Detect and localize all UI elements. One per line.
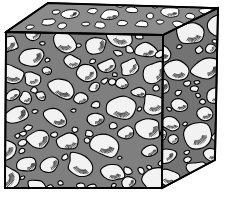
aggregate-hatch-mark	[225, 27, 227, 28]
aggregate-hatch-mark	[206, 116, 207, 118]
aggregate-hatch-mark	[40, 190, 42, 192]
aggregate-particle	[147, 165, 152, 169]
aggregate-hatch-mark	[45, 72, 46, 73]
aggregate-outline	[153, 85, 159, 91]
aggregate-particle	[184, 157, 192, 163]
aggregate-outline	[82, 22, 90, 26]
aggregate-outline	[183, 122, 188, 126]
aggregate-particle	[109, 123, 117, 129]
aggregate-hatch-mark	[49, 72, 51, 73]
aggregate-particle	[186, 162, 212, 179]
aggregate-particle	[147, 13, 154, 19]
aggregate-particle	[86, 38, 106, 55]
aggregate-outline	[177, 45, 182, 49]
aggregate-particle	[108, 79, 115, 85]
aggregate-outline	[186, 162, 212, 179]
aggregate-hatch-mark	[40, 97, 41, 98]
aggregate-outline	[212, 40, 217, 44]
aggregate-outline	[147, 13, 154, 19]
aggregate-hatch-mark	[222, 140, 224, 142]
aggregate-particle	[126, 7, 138, 13]
aggregate-outline	[58, 181, 63, 185]
aggregate-outline	[87, 8, 97, 13]
aggregate-hatch-mark	[217, 140, 218, 142]
aggregate-outline	[190, 86, 198, 92]
aggregate-particle	[39, 42, 45, 46]
aggregate-hatch-mark	[197, 174, 198, 176]
aggregate-outline	[199, 99, 205, 104]
aggregate-outline	[111, 183, 116, 187]
aggregate-particle	[190, 86, 198, 92]
aggregate-particle	[111, 183, 116, 187]
aggregate-particle	[199, 99, 205, 104]
aggregate-hatch-mark	[204, 172, 208, 173]
aggregate-hatch-mark	[201, 174, 203, 177]
aggregate-hatch-mark	[204, 173, 207, 175]
aggregate-outline	[86, 38, 106, 55]
aggregate-particle	[74, 93, 88, 104]
aggregate-outline	[196, 93, 201, 98]
aggregate-particle	[19, 148, 25, 153]
aggregate-particle	[85, 130, 93, 136]
aggregate-outline	[117, 20, 127, 26]
aggregate-outline	[118, 156, 122, 159]
aggregate-particle	[84, 138, 90, 143]
aggregate-hatch-mark	[169, 14, 170, 15]
aggregate-particle	[82, 22, 90, 26]
aggregate-outline	[184, 123, 212, 150]
aggregate-outline	[90, 59, 96, 64]
aggregate-particle	[194, 81, 200, 85]
aggregate-particle	[168, 135, 178, 144]
aggregate-hatch-mark	[221, 30, 222, 33]
aggregate-hatch-mark	[208, 73, 209, 76]
aggregate-outline	[85, 130, 93, 136]
aggregate-particle	[17, 157, 36, 171]
aggregate-particle	[71, 109, 76, 112]
aggregate-hatch-mark	[176, 74, 177, 77]
aggregate-outline	[184, 81, 191, 87]
aggregate-outline	[186, 13, 195, 19]
aggregate-particle	[42, 67, 51, 75]
aggregate-particle	[58, 181, 63, 185]
aggregate-outline	[39, 42, 45, 46]
aggregate-hatch-mark	[131, 181, 133, 182]
aggregate-hatch-mark	[222, 140, 224, 141]
aggregate-particle	[183, 122, 188, 126]
aggregate-hatch-mark	[209, 114, 212, 115]
aggregate-hatch-mark	[220, 141, 221, 143]
aggregate-particle	[197, 107, 213, 121]
aggregate-outline	[42, 19, 56, 25]
aggregate-outline	[20, 176, 25, 179]
aggregate-particle	[90, 59, 96, 64]
aggregate-outline	[84, 138, 90, 143]
aggregate-outline	[137, 107, 142, 111]
aggregate-outline	[147, 165, 152, 169]
aggregate-hatch-mark	[203, 173, 206, 175]
aggregate-particle	[72, 127, 78, 132]
aggregate-outline	[32, 110, 38, 114]
aggregate-outline	[95, 22, 106, 28]
aggregate-hatch-mark	[36, 190, 37, 192]
aggregate-hatch-mark	[219, 98, 221, 100]
aggregate-hatch-mark	[38, 190, 39, 192]
aggregate-particle	[76, 44, 81, 48]
aggregate-hatch-mark	[96, 88, 97, 89]
aggregate-particle	[45, 58, 50, 62]
figure-canvas	[0, 0, 227, 199]
aggregate-particle	[42, 19, 56, 25]
aggregate-hatch-mark	[196, 173, 197, 175]
aggregate-outline	[194, 81, 200, 85]
aggregate-hatch-mark	[223, 29, 225, 32]
aggregate-hatch-mark	[221, 141, 223, 143]
aggregate-particle	[184, 123, 212, 150]
aggregate-outline	[72, 127, 78, 132]
aggregate-hatch-mark	[34, 189, 35, 190]
aggregate-particle	[212, 40, 217, 44]
aggregate-hatch-mark	[71, 64, 72, 66]
aggregate-particle	[20, 176, 25, 179]
aggregate-particle	[95, 22, 106, 28]
aggregate-hatch-mark	[225, 24, 227, 25]
aggregate-particle	[184, 150, 190, 154]
aggregate-outline	[108, 79, 115, 85]
aggregate-outline	[205, 44, 216, 53]
